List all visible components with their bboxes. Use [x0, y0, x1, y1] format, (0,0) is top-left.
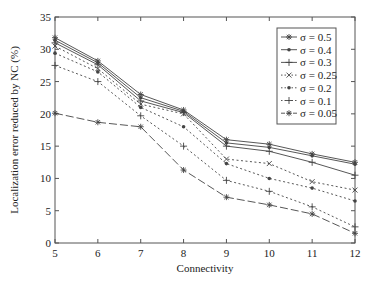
legend-label: σ = 0.3 — [300, 56, 332, 68]
x-tick-label: 9 — [224, 247, 230, 259]
marker-plus — [94, 78, 101, 85]
legend-label: σ = 0.05 — [300, 107, 337, 119]
legend-label: σ = 0.5 — [300, 31, 332, 43]
y-axis-label: Localization error reduced by NC (%) — [8, 46, 21, 214]
marker-dot — [287, 86, 291, 90]
marker-x — [267, 161, 272, 166]
marker-dot — [353, 199, 357, 203]
x-axis-label: Connectivity — [177, 262, 234, 274]
marker-star — [95, 119, 101, 125]
legend-label: σ = 0.25 — [300, 69, 337, 81]
x-tick-label: 10 — [264, 247, 276, 259]
y-tick-label: 5 — [46, 205, 52, 217]
y-tick-label: 0 — [46, 237, 52, 249]
marker-star — [138, 124, 144, 130]
x-tick-label: 11 — [307, 247, 318, 259]
x-tick-label: 5 — [52, 247, 58, 259]
legend-label: σ = 0.1 — [300, 95, 331, 107]
y-tick-label: 30 — [40, 43, 52, 55]
marker-plus — [52, 39, 59, 46]
marker-dot — [287, 48, 291, 52]
marker-star — [181, 167, 187, 173]
marker-plus — [266, 188, 273, 195]
marker-dot — [310, 154, 314, 158]
marker-plus — [266, 148, 273, 155]
marker-plus — [352, 223, 359, 230]
marker-plus — [352, 172, 359, 179]
marker-star — [266, 202, 272, 208]
marker-star — [352, 230, 358, 236]
marker-dot — [96, 70, 100, 74]
x-tick-label: 12 — [350, 247, 361, 259]
marker-plus — [223, 177, 230, 184]
y-tick-label: 10 — [40, 172, 52, 184]
y-tick-label: 15 — [40, 140, 52, 152]
marker-dot — [182, 125, 186, 129]
marker-plus — [180, 143, 187, 150]
marker-star — [309, 211, 315, 217]
marker-plus — [137, 112, 144, 119]
x-tick-label: 7 — [138, 247, 144, 259]
marker-star — [223, 194, 229, 200]
marker-dot — [353, 162, 357, 166]
marker-star — [286, 34, 292, 40]
marker-dot — [225, 162, 229, 166]
marker-dot — [267, 177, 271, 181]
marker-dot — [53, 51, 57, 55]
marker-star — [52, 110, 58, 116]
y-tick-label: 20 — [40, 108, 52, 120]
marker-plus — [309, 203, 316, 210]
marker-dot — [139, 106, 143, 110]
y-tick-label: 35 — [40, 11, 52, 23]
line-chart: 5678910111205101520253035 σ = 0.5σ = 0.4… — [0, 0, 379, 290]
marker-plus — [52, 62, 59, 69]
legend-label: σ = 0.4 — [300, 44, 332, 56]
y-tick-label: 25 — [40, 76, 52, 88]
x-tick-label: 8 — [181, 247, 187, 259]
series-line — [55, 113, 355, 233]
marker-plus — [309, 159, 316, 166]
marker-star — [286, 110, 292, 116]
legend-label: σ = 0.2 — [300, 82, 331, 94]
marker-dot — [310, 186, 314, 190]
x-tick-label: 6 — [95, 247, 101, 259]
legend: σ = 0.5σ = 0.4σ = 0.3σ = 0.25σ = 0.2σ = … — [277, 28, 337, 124]
